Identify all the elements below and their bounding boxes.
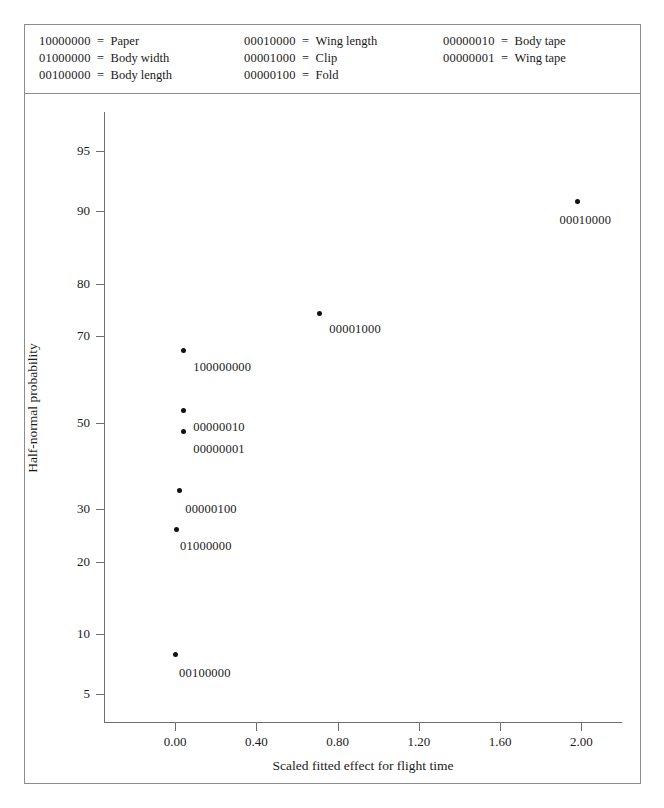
data-point — [181, 429, 186, 434]
legend-entry-label: Body width — [111, 50, 170, 67]
data-point — [174, 527, 179, 532]
y-tick-mark — [96, 509, 105, 510]
legend-entry-label: Fold — [316, 67, 339, 84]
legend-entry-code: 01000000 — [39, 50, 91, 67]
legend-entry: 00000010=Body tape — [443, 33, 566, 50]
legend-column-1: 10000000=Paper01000000=Body width0010000… — [39, 33, 172, 84]
data-point-label: 100000000 — [193, 360, 251, 375]
data-point — [173, 652, 178, 657]
legend-entry: 01000000=Body width — [39, 50, 172, 67]
y-tick-mark — [96, 634, 105, 635]
y-tick-label: 95 — [58, 143, 90, 159]
legend-entry-code: 00000001 — [443, 50, 495, 67]
x-tick-label: 0.00 — [145, 734, 205, 750]
data-point — [181, 348, 186, 353]
legend-column-2: 00010000=Wing length00001000=Clip0000010… — [244, 33, 377, 84]
x-tick-label: 1.60 — [470, 734, 530, 750]
y-tick-label: 20 — [58, 554, 90, 570]
legend-column-3: 00000010=Body tape00000001=Wing tape — [443, 33, 566, 67]
y-tick-label: 50 — [58, 415, 90, 431]
legend-entry-code: 00010000 — [244, 33, 296, 50]
data-point — [575, 199, 580, 204]
legend-entry-label: Paper — [111, 33, 139, 50]
legend-entry: 00000001=Wing tape — [443, 50, 566, 67]
y-tick-mark — [96, 336, 105, 337]
legend-entry-separator: = — [296, 50, 316, 67]
y-tick-label: 30 — [58, 501, 90, 517]
data-point-label: 00000100 — [185, 502, 237, 517]
x-axis-title: Scaled fitted effect for flight time — [104, 758, 622, 774]
legend-entry: 10000000=Paper — [39, 33, 172, 50]
x-tick-mark — [581, 723, 582, 731]
y-tick-mark — [96, 423, 105, 424]
figure-outer-frame — [24, 24, 641, 784]
y-tick-label: 5 — [58, 686, 90, 702]
x-tick-mark — [500, 723, 501, 731]
x-tick-label: 2.00 — [551, 734, 611, 750]
legend-entry-separator: = — [495, 33, 515, 50]
y-tick-label: 90 — [58, 203, 90, 219]
legend-entry-code: 10000000 — [39, 33, 91, 50]
legend-entry-code: 00100000 — [39, 67, 91, 84]
x-axis-line — [104, 722, 622, 723]
legend-entry-code: 00001000 — [244, 50, 296, 67]
y-tick-label: 80 — [58, 276, 90, 292]
x-tick-mark — [175, 723, 176, 731]
y-tick-mark — [96, 694, 105, 695]
legend-entry-separator: = — [296, 33, 316, 50]
legend-entry-label: Clip — [316, 50, 338, 67]
x-tick-label: 0.80 — [308, 734, 368, 750]
legend-entry-label: Body length — [111, 67, 172, 84]
legend-entry: 00100000=Body length — [39, 67, 172, 84]
x-tick-label: 0.40 — [226, 734, 286, 750]
data-point-label: 01000000 — [180, 539, 232, 554]
x-tick-mark — [338, 723, 339, 731]
y-tick-mark — [96, 151, 105, 152]
y-tick-label: 70 — [58, 328, 90, 344]
legend-entry-separator: = — [91, 67, 111, 84]
figure-canvas: 10000000=Paper01000000=Body width0010000… — [0, 0, 664, 808]
legend-entry-code: 00000010 — [443, 33, 495, 50]
data-point-label: 00010000 — [523, 213, 647, 228]
legend-entry: 00000100=Fold — [244, 67, 377, 84]
legend-entry: 00001000=Clip — [244, 50, 377, 67]
x-tick-label: 1.20 — [389, 734, 449, 750]
legend-entry: 00010000=Wing length — [244, 33, 377, 50]
x-tick-mark — [256, 723, 257, 731]
legend-entry-label: Wing length — [316, 33, 378, 50]
data-point-label: 00001000 — [329, 322, 381, 337]
legend-entry-separator: = — [91, 50, 111, 67]
legend-entry-separator: = — [91, 33, 111, 50]
y-tick-mark — [96, 562, 105, 563]
legend-entry-separator: = — [495, 50, 515, 67]
legend-box: 10000000=Paper01000000=Body width0010000… — [24, 24, 641, 94]
legend-entry-label: Body tape — [515, 33, 566, 50]
y-axis-title: Half-normal probability — [25, 298, 41, 518]
y-tick-label: 10 — [58, 626, 90, 642]
y-tick-mark — [96, 211, 105, 212]
legend-entry-code: 00000100 — [244, 67, 296, 84]
legend-entry-separator: = — [296, 67, 316, 84]
data-point-label: 00100000 — [179, 666, 231, 681]
data-point-label: 00000010 — [193, 420, 245, 435]
y-tick-mark — [96, 284, 105, 285]
x-tick-mark — [419, 723, 420, 731]
data-point — [181, 408, 186, 413]
legend-entry-label: Wing tape — [515, 50, 566, 67]
data-point-label: 00000001 — [193, 442, 245, 457]
y-axis-line — [104, 112, 105, 723]
